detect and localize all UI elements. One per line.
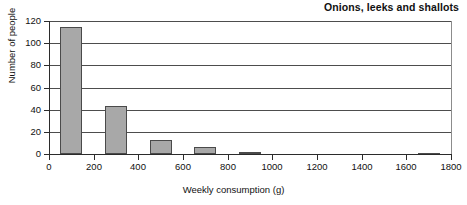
- bar: [60, 27, 82, 154]
- bar: [150, 140, 172, 154]
- gridline-y-80: [49, 65, 452, 66]
- y-tick-label-20: 20: [30, 126, 41, 137]
- y-tick-label-60: 60: [30, 82, 41, 93]
- x-tick-label-1600: 1600: [386, 161, 426, 172]
- x-tick-1400: [362, 155, 363, 160]
- x-tick-0: [49, 155, 50, 160]
- x-tick-label-1400: 1400: [342, 161, 382, 172]
- gridline-y-100: [49, 43, 452, 44]
- axis-line-left: [49, 21, 50, 155]
- y-axis-title: Number of people: [6, 0, 17, 101]
- x-tick-1600: [406, 155, 407, 160]
- x-axis-title: Weekly consumption (g): [0, 184, 467, 195]
- bar: [194, 147, 216, 154]
- x-tick-label-200: 200: [74, 161, 114, 172]
- x-tick-label-1000: 1000: [252, 161, 292, 172]
- x-tick-label-800: 800: [208, 161, 248, 172]
- y-tick-label-40: 40: [30, 104, 41, 115]
- plot-area: [49, 21, 452, 155]
- x-tick-1800: [451, 155, 452, 160]
- x-tick-1000: [272, 155, 273, 160]
- x-tick-1200: [317, 155, 318, 160]
- y-tick-label-120: 120: [25, 15, 41, 26]
- gridline-y-60: [49, 88, 452, 89]
- x-tick-600: [183, 155, 184, 160]
- y-tick-label-100: 100: [25, 37, 41, 48]
- x-tick-label-0: 0: [29, 161, 69, 172]
- chart-container: Onions, leeks and shallots Number of peo…: [0, 0, 467, 205]
- x-tick-label-1800: 1800: [431, 161, 467, 172]
- axis-line-bottom: [49, 154, 452, 155]
- x-tick-label-400: 400: [118, 161, 158, 172]
- x-tick-200: [94, 155, 95, 160]
- x-tick-label-600: 600: [163, 161, 203, 172]
- x-tick-label-1200: 1200: [297, 161, 337, 172]
- x-tick-400: [138, 155, 139, 160]
- y-tick-label-0: 0: [36, 148, 41, 159]
- bar: [105, 106, 127, 154]
- chart-title: Onions, leeks and shallots: [324, 1, 459, 13]
- gridline-y-120: [49, 21, 452, 22]
- x-tick-800: [228, 155, 229, 160]
- axis-line-right: [451, 21, 452, 155]
- y-tick-label-80: 80: [30, 59, 41, 70]
